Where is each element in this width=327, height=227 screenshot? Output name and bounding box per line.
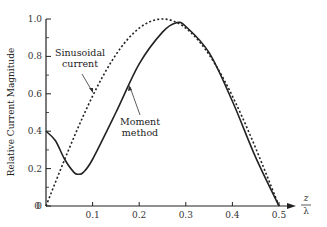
svg-text:method: method <box>122 127 158 138</box>
x-tick-label: 0.3 <box>179 210 194 220</box>
svg-text:z: z <box>303 193 309 203</box>
svg-text:current: current <box>62 58 98 69</box>
y-tick-label: 0.8 <box>28 51 43 61</box>
y-tick-label: 0.4 <box>28 126 43 136</box>
svg-text:Moment: Moment <box>120 116 160 127</box>
annotation-arrow <box>130 87 140 115</box>
y-tick-label: 0.2 <box>28 164 42 174</box>
svg-text:Sinusoidal: Sinusoidal <box>55 47 105 58</box>
origin-label: 0 <box>34 201 40 211</box>
x-axis-arrow-icon <box>287 203 296 209</box>
x-axis-label: z λ <box>301 193 311 216</box>
x-tick-label: 0.1 <box>85 210 99 220</box>
x-tick-label: 0.2 <box>132 210 146 220</box>
arrow-head-icon <box>89 88 93 93</box>
annotation-moment-method: Moment method <box>120 85 160 138</box>
y-ticks: 00.20.40.60.81.0 <box>28 14 51 211</box>
svg-text:λ: λ <box>303 206 309 216</box>
x-ticks: 0.10.20.30.40.50 <box>34 201 286 220</box>
x-tick-label: 0.5 <box>272 210 287 220</box>
x-tick-label: 0.4 <box>225 210 240 220</box>
y-axis-label: Relative Current Magnitude <box>6 48 16 177</box>
chart: 00.20.40.60.81.0 0.10.20.30.40.50 Relati… <box>0 0 327 227</box>
y-tick-label: 0.6 <box>28 89 43 99</box>
y-tick-label: 1.0 <box>28 14 43 24</box>
